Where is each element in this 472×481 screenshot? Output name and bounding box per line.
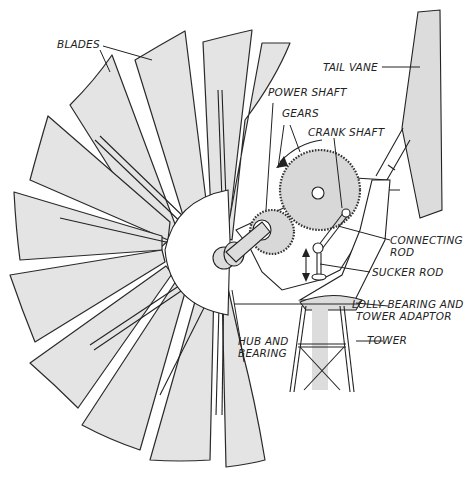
label-lolly-bearing-1: LOLLY BEARING AND <box>352 298 464 310</box>
label-connecting-rod-2: ROD <box>390 246 414 258</box>
label-connecting-rod-1: CONNECTING <box>390 234 463 246</box>
tower <box>290 306 354 392</box>
label-power-shaft: POWER SHAFT <box>268 86 348 98</box>
label-lolly-bearing-2: TOWER ADAPTOR <box>356 310 452 322</box>
windmill-diagram: BLADES TAIL VANE POWER SHAFT GEARS CRANK… <box>0 0 472 481</box>
label-tail-vane: TAIL VANE <box>323 61 378 73</box>
tail-vane <box>402 10 442 218</box>
label-hub-and-bearing-2: BEARING <box>238 347 287 359</box>
label-gears: GEARS <box>282 107 319 119</box>
label-blades: BLADES <box>57 38 100 50</box>
crank-shaft-center <box>312 187 324 199</box>
label-tower: TOWER <box>367 334 407 346</box>
label-crank-shaft: CRANK SHAFT <box>308 126 386 138</box>
label-sucker-rod: SUCKER ROD <box>372 266 443 278</box>
label-hub-and-bearing-1: HUB AND <box>238 335 289 347</box>
